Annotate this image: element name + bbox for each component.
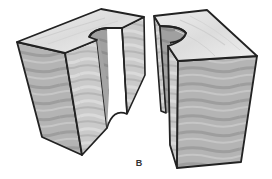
right-block	[154, 10, 257, 168]
left-block	[17, 9, 145, 155]
right-front-face	[177, 56, 257, 168]
wood-blocks-illustration: B	[0, 0, 272, 179]
figure-label: B	[136, 158, 143, 168]
